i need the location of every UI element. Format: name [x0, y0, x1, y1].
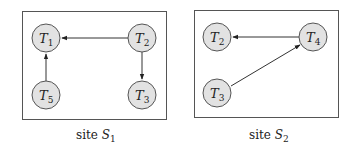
node-t4: T4 [299, 23, 327, 51]
node-t1: T1 [32, 24, 60, 52]
site-s1-caption: site S1 [76, 128, 116, 144]
site-s2-caption: site S2 [249, 128, 289, 144]
node-t5: T5 [32, 81, 60, 109]
site-s1-panel: T1 T2 T3 T5 site S1 [23, 12, 167, 145]
site-s2-panel: T2 T4 T3 site S2 [195, 11, 339, 145]
wait-for-graph-diagram: T1 T2 T3 T5 site S1 T2 T4 T3 [0, 0, 351, 151]
node-t3: T3 [203, 79, 231, 107]
edge-t3-to-t4 [231, 45, 300, 86]
node-t3: T3 [128, 81, 156, 109]
node-t2: T2 [128, 24, 156, 52]
node-t2: T2 [203, 23, 231, 51]
